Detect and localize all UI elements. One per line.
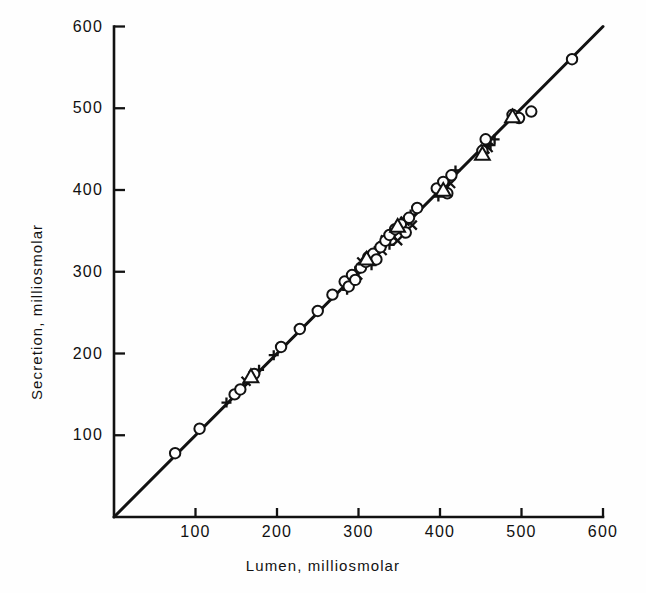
marker-open-circle xyxy=(480,134,490,144)
y-axis-title: Secretion, milliosmolar xyxy=(28,224,45,400)
marker-open-circle xyxy=(526,106,536,116)
marker-open-circle xyxy=(170,448,180,458)
scatter-plot-figure: Lumen, milliosmolar Secretion, milliosmo… xyxy=(0,0,646,593)
marker-open-circle xyxy=(412,203,422,213)
y-tick-label-600: 600 xyxy=(55,18,103,36)
x-tick-label-500: 500 xyxy=(506,523,536,541)
y-tick-label-300: 300 xyxy=(55,263,103,281)
marker-open-circle xyxy=(404,213,414,223)
marker-open-circle xyxy=(276,342,286,352)
marker-open-circle xyxy=(295,324,305,334)
plot-canvas xyxy=(0,0,646,593)
marker-open-circle xyxy=(446,170,456,180)
x-tick-label-300: 300 xyxy=(343,523,373,541)
marker-open-circle xyxy=(235,384,245,394)
marker-open-circle xyxy=(194,424,204,434)
y-tick-label-500: 500 xyxy=(55,99,103,117)
marker-open-circle xyxy=(567,54,577,64)
y-tick-label-100: 100 xyxy=(55,426,103,444)
x-tick-label-600: 600 xyxy=(588,523,618,541)
x-tick-label-400: 400 xyxy=(425,523,455,541)
y-tick-label-400: 400 xyxy=(55,181,103,199)
x-tick-label-100: 100 xyxy=(180,523,210,541)
marker-open-circle xyxy=(350,275,360,285)
x-axis-title: Lumen, milliosmolar xyxy=(0,557,646,574)
y-tick-label-200: 200 xyxy=(55,345,103,363)
marker-open-circle xyxy=(313,306,323,316)
marker-open-circle xyxy=(327,289,337,299)
x-tick-label-200: 200 xyxy=(262,523,292,541)
